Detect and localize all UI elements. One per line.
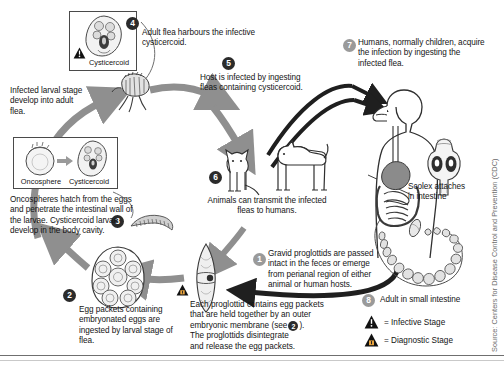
cysticercoid-box-label: Cysticercoid bbox=[84, 58, 134, 67]
oncosphere-box-label-right: Cysticercoid bbox=[63, 177, 115, 186]
step-marker-5: 5 bbox=[222, 57, 235, 70]
egg-packet-illustration bbox=[88, 245, 148, 311]
cysticercoid-illustration-2 bbox=[73, 140, 111, 178]
life-cycle-diagram: Cysticercoid Oncosphere Cysticercoid bbox=[0, 0, 504, 369]
cat-illustration bbox=[218, 145, 264, 197]
step-marker-7: 7 bbox=[343, 39, 356, 52]
step-marker-6: 6 bbox=[209, 171, 222, 184]
step-text-2: Egg packets containing embryonated eggs … bbox=[79, 305, 189, 347]
proglottid-detail-line-5: and release the egg packets. bbox=[190, 342, 366, 352]
footer-divider-top bbox=[0, 355, 504, 356]
source-credit: Source: Centers for Disease Control and … bbox=[490, 159, 499, 352]
inline-step-ref-2: 2 bbox=[288, 321, 298, 331]
step-text-7: Humans, normally children, acquire the i… bbox=[358, 38, 488, 69]
adult-worm-illustration bbox=[368, 216, 476, 302]
larval-to-adult-caption: Infected larval stage develop into adult… bbox=[10, 86, 88, 117]
proglottid-detail-line-3b: ). bbox=[299, 321, 304, 331]
legend-diagnostic-triangle-icon bbox=[364, 333, 379, 347]
step-text-1: Gravid proglottids are passed intact in … bbox=[268, 249, 378, 291]
step-marker-1: 1 bbox=[253, 253, 266, 266]
step-text-8: Adult in small intestine bbox=[380, 295, 500, 305]
proglottid-detail-line-2: that are held together by an outer bbox=[190, 310, 366, 320]
box-inner-arrow-icon bbox=[57, 156, 73, 166]
step-text-3: Oncospheres hatch from the eggs and pene… bbox=[10, 195, 140, 237]
proglottid-detail-line-3: embryonic membrane (see 2 ). bbox=[190, 321, 366, 331]
proglottid-detail-text: Each proglottid contains egg packets tha… bbox=[190, 300, 366, 352]
oncosphere-illustration bbox=[20, 141, 60, 177]
legend-infective-label: = Infective Stage bbox=[384, 318, 445, 327]
legend-diagnostic-label: = Diagnostic Stage bbox=[384, 336, 453, 345]
step-text-6: Animals can transmit the infected fleas … bbox=[205, 196, 329, 217]
adult-flea-illustration bbox=[110, 70, 156, 114]
step-marker-2: 2 bbox=[63, 289, 76, 302]
step-marker-4: 4 bbox=[126, 17, 139, 30]
diagnostic-triangle-icon bbox=[176, 284, 189, 296]
scolex-caption-line-1: Scolex attaches bbox=[408, 182, 498, 192]
oncosphere-box-label-left: Oncosphere bbox=[15, 177, 67, 186]
legend-infective-triangle-icon bbox=[364, 315, 379, 329]
step-text-5: Host is infected by ingesting fleas cont… bbox=[200, 73, 304, 94]
proglottid-detail-line-1: Each proglottid contains egg packets bbox=[190, 300, 366, 310]
scolex-caption-line-2: in intestine bbox=[408, 192, 498, 202]
step-text-4: Adult flea harbours the infective cystic… bbox=[142, 28, 260, 49]
footer-divider-bottom bbox=[0, 360, 504, 361]
proglottid-detail-line-4: The proglottids disintegrate bbox=[190, 331, 366, 341]
dog-illustration bbox=[264, 138, 330, 200]
proglottid-detail-line-3a: embryonic membrane (see bbox=[190, 321, 287, 331]
